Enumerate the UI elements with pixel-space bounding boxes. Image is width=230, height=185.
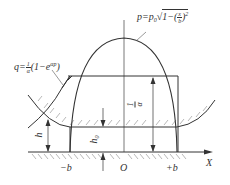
h-label: h [34,133,44,138]
q-body: (1−e [31,61,51,72]
diagram-canvas [0,0,230,185]
q-close: ) [56,61,59,72]
ground-surface [28,152,210,159]
origin-label: O [120,163,127,173]
p-exp: 2 [185,11,188,17]
x-axis-arrow-icon [204,150,213,155]
inv-alpha-label: 1α [127,102,144,108]
h0-label: h0 [89,136,100,144]
upper-surface [28,95,215,127]
q-formula: q=1α(1−eαp) [14,61,60,74]
p-leader-line [136,32,146,41]
p-body: 1−( [162,11,177,22]
h0-main: h [88,139,99,144]
pressure-curve-p [70,38,177,152]
inv-alpha-den: α [136,102,144,108]
neg-b-label: −b [60,163,72,173]
p-formula: p=p0√1−(xb)2 [137,11,188,24]
pos-b-label: +b [166,163,178,173]
pressure-rectangle [68,76,178,152]
p-lhs: p=p [137,11,154,22]
h0-sub: 0 [94,136,100,139]
x-axis-label: X [206,158,212,168]
q-lhs: q= [14,61,26,72]
